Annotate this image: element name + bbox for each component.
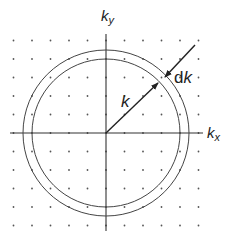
lattice-dot bbox=[50, 114, 52, 116]
lattice-dot bbox=[124, 40, 126, 42]
lattice-dot bbox=[161, 206, 163, 208]
lattice-dot bbox=[50, 188, 52, 190]
lattice-dot bbox=[161, 40, 163, 42]
lattice-dot bbox=[161, 188, 163, 190]
lattice-dot bbox=[198, 58, 200, 60]
lattice-dot bbox=[50, 206, 52, 208]
lattice-dot bbox=[142, 151, 144, 153]
lattice-dot bbox=[50, 95, 52, 97]
lattice-dot bbox=[68, 169, 70, 171]
lattice-dot bbox=[50, 225, 52, 227]
lattice-dot bbox=[13, 40, 15, 42]
lattice-dot bbox=[161, 114, 163, 116]
lattice-dot bbox=[179, 225, 181, 227]
lattice-dot bbox=[31, 58, 33, 60]
ky-axis-label: ky bbox=[101, 7, 116, 26]
lattice-dot bbox=[161, 151, 163, 153]
lattice-dot bbox=[68, 188, 70, 190]
lattice-dot bbox=[142, 77, 144, 79]
lattice-dot bbox=[50, 40, 52, 42]
lattice-dot bbox=[161, 77, 163, 79]
lattice-dot bbox=[87, 206, 89, 208]
lattice-dot bbox=[198, 169, 200, 171]
lattice-dot bbox=[50, 58, 52, 60]
lattice-dot bbox=[124, 77, 126, 79]
lattice-dot bbox=[179, 206, 181, 208]
lattice-dot bbox=[13, 151, 15, 153]
lattice-dot bbox=[87, 40, 89, 42]
lattice-dot bbox=[31, 114, 33, 116]
lattice-dot bbox=[13, 188, 15, 190]
lattice-dot bbox=[142, 114, 144, 116]
lattice-dot bbox=[50, 169, 52, 171]
lattice-dot bbox=[68, 95, 70, 97]
lattice-dot bbox=[198, 95, 200, 97]
lattice-dot bbox=[13, 95, 15, 97]
lattice-dot bbox=[179, 40, 181, 42]
lattice-dot bbox=[198, 77, 200, 79]
lattice-dot bbox=[68, 225, 70, 227]
lattice-dot bbox=[87, 77, 89, 79]
lattice-dot bbox=[87, 188, 89, 190]
lattice-dot bbox=[87, 114, 89, 116]
lattice-dot bbox=[13, 77, 15, 79]
lattice-dot bbox=[13, 206, 15, 208]
lattice-dot bbox=[31, 40, 33, 42]
lattice-dot bbox=[161, 95, 163, 97]
k-label: k bbox=[121, 92, 131, 111]
k-space-diagram: k dk kx ky bbox=[0, 0, 234, 240]
lattice-dot bbox=[179, 114, 181, 116]
lattice-dot bbox=[13, 58, 15, 60]
lattice-dot bbox=[68, 40, 70, 42]
lattice-dot bbox=[198, 206, 200, 208]
lattice-dot bbox=[124, 58, 126, 60]
lattice-dot bbox=[87, 151, 89, 153]
lattice-dot bbox=[179, 151, 181, 153]
lattice-dot bbox=[31, 188, 33, 190]
lattice-dot bbox=[124, 206, 126, 208]
lattice-dot bbox=[31, 151, 33, 153]
lattice-dot bbox=[161, 169, 163, 171]
lattice-dot bbox=[87, 169, 89, 171]
lattice-dot bbox=[198, 188, 200, 190]
lattice-dot bbox=[87, 225, 89, 227]
lattice-dot bbox=[198, 40, 200, 42]
kx-axis-label: kx bbox=[207, 124, 221, 143]
lattice-dot bbox=[68, 114, 70, 116]
lattice-dot bbox=[161, 58, 163, 60]
lattice-dot bbox=[13, 225, 15, 227]
lattice-dot bbox=[31, 77, 33, 79]
lattice-dot bbox=[198, 114, 200, 116]
lattice-dot bbox=[87, 95, 89, 97]
lattice-dot bbox=[179, 188, 181, 190]
k-arrow bbox=[106, 83, 158, 133]
lattice-dot bbox=[142, 40, 144, 42]
lattice-dot bbox=[50, 151, 52, 153]
lattice-dot bbox=[13, 169, 15, 171]
lattice-dot bbox=[124, 169, 126, 171]
lattice-dot bbox=[68, 151, 70, 153]
lattice-dot bbox=[31, 225, 33, 227]
lattice-dot bbox=[124, 188, 126, 190]
lattice-dot bbox=[13, 114, 15, 116]
lattice-dot bbox=[142, 225, 144, 227]
lattice-dot bbox=[31, 206, 33, 208]
lattice-dot bbox=[142, 169, 144, 171]
lattice-dot bbox=[50, 77, 52, 79]
lattice-dot bbox=[87, 58, 89, 60]
lattice-dot bbox=[161, 225, 163, 227]
lattice-dot bbox=[142, 188, 144, 190]
lattice-dot bbox=[124, 151, 126, 153]
lattice-dot bbox=[124, 225, 126, 227]
dk-label: dk bbox=[174, 68, 193, 87]
lattice-dot bbox=[68, 77, 70, 79]
lattice-dot bbox=[198, 151, 200, 153]
lattice-dot bbox=[198, 225, 200, 227]
